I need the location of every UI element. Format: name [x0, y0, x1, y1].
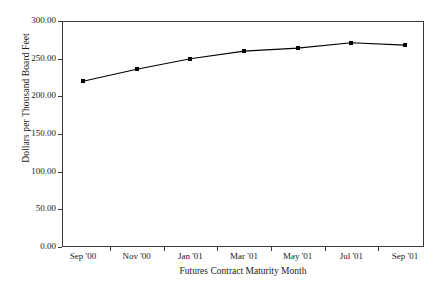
- chart-figure: Dollars per Thousand Board Feet 300.0025…: [0, 0, 446, 286]
- series-line-layer: [0, 0, 446, 286]
- data-point-marker: [296, 46, 300, 50]
- data-point-marker: [81, 79, 85, 83]
- data-point-marker: [349, 41, 353, 45]
- data-point-marker: [188, 57, 192, 61]
- data-point-marker: [403, 43, 407, 47]
- data-point-marker: [242, 49, 246, 53]
- x-axis-title: Futures Contract Maturity Month: [62, 266, 424, 276]
- data-point-marker: [135, 67, 139, 71]
